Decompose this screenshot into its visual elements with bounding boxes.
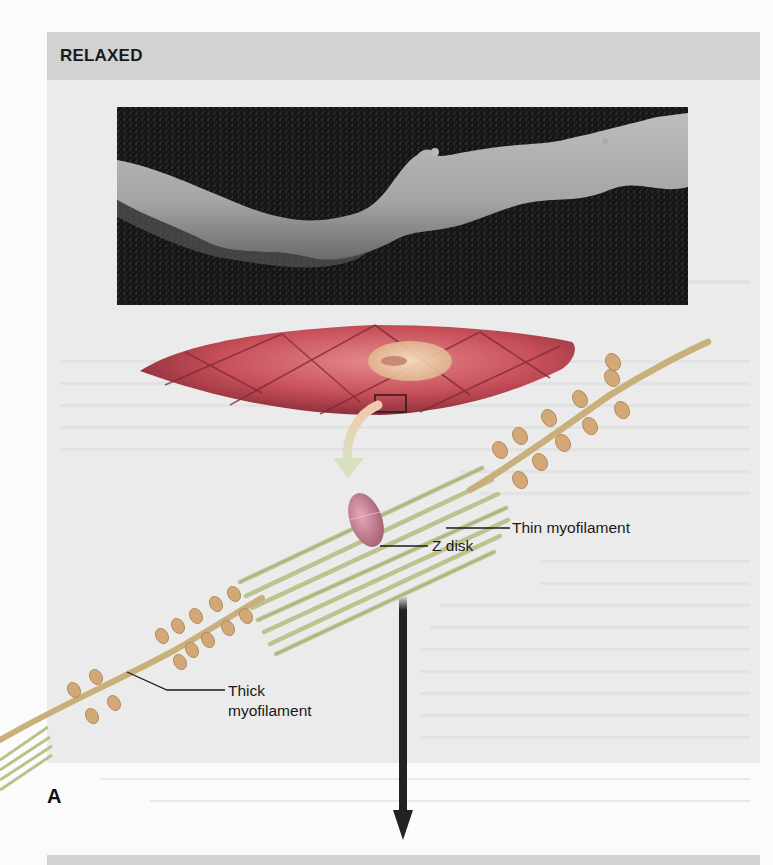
z-disk <box>341 488 390 552</box>
label-z-disk: Z disk <box>432 535 473 557</box>
thin-myofilaments <box>240 468 508 654</box>
thick-myofilament-leader <box>127 672 225 690</box>
thick-myofilament-lower <box>0 584 262 790</box>
label-thick-line1: Thick <box>228 680 265 702</box>
label-thick-line2: myofilament <box>228 700 312 722</box>
smooth-muscle-cell-drawing <box>140 325 575 415</box>
panel-letter: A <box>47 785 61 808</box>
next-panel-header-strip <box>47 855 760 865</box>
diagram-artwork <box>0 0 773 865</box>
label-thin-myofilament: Thin myofilament <box>512 517 630 539</box>
curved-arrow-icon <box>333 405 378 478</box>
down-arrow-icon <box>393 597 413 840</box>
